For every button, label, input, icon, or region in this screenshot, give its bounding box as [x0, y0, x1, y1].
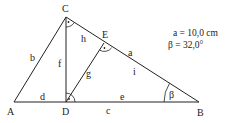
- triangle-diagram: C E A D B b f h g a i d e c β a = 10,0 c…: [0, 0, 227, 123]
- vertex-label-a: A: [7, 106, 15, 117]
- given-angle-beta: β = 32,0°: [168, 40, 204, 50]
- right-angle-mark-c: [66, 22, 74, 27]
- segment-label-a: a: [128, 47, 133, 58]
- right-angle-dot-d: [68, 98, 70, 100]
- angle-label-beta: β: [169, 89, 174, 100]
- vertex-label-e: E: [102, 29, 108, 40]
- segment-label-b: b: [30, 52, 35, 63]
- right-angle-dot-c: [68, 21, 70, 23]
- segment-g: [66, 43, 104, 102]
- right-angle-dot-e: [104, 47, 106, 49]
- segment-label-f: f: [58, 58, 62, 69]
- segment-label-g: g: [86, 68, 91, 79]
- segment-label-c: c: [106, 105, 111, 116]
- given-side-a: a = 10,0 cm: [173, 28, 219, 38]
- segment-label-i: i: [133, 66, 136, 77]
- segment-label-d: d: [40, 91, 45, 102]
- vertex-label-c: C: [62, 3, 69, 14]
- right-angle-mark-e: [100, 48, 112, 52]
- segment-label-h: h: [81, 33, 86, 44]
- segment-label-e: e: [120, 91, 125, 102]
- vertex-label-b: B: [197, 107, 204, 118]
- vertex-label-d: D: [62, 106, 69, 117]
